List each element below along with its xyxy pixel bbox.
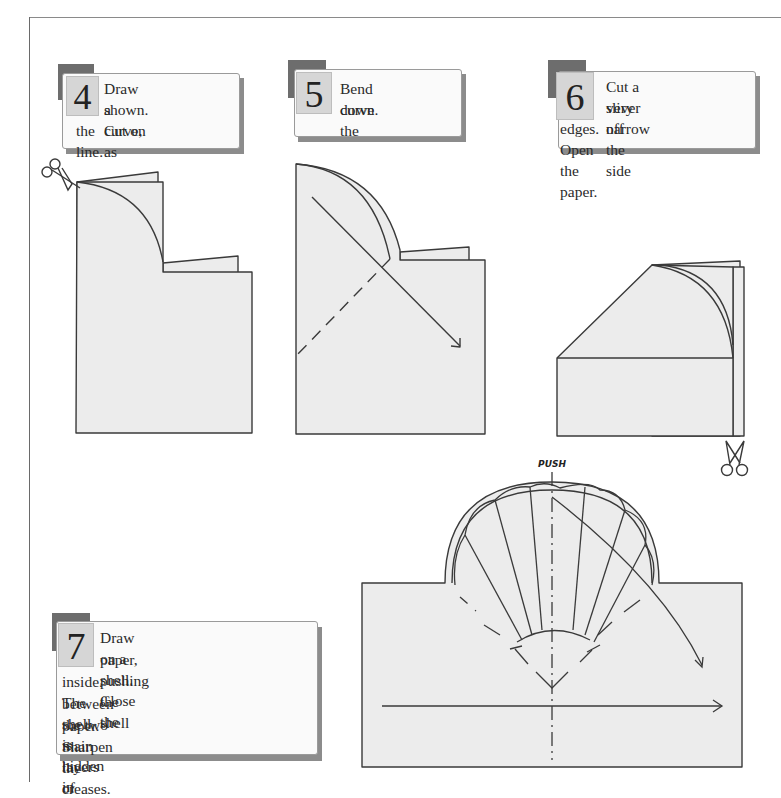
step-6-paper: [557, 261, 744, 436]
push-label: PUSH: [538, 459, 566, 469]
scissors-icon: [722, 441, 748, 476]
scissors-icon: [42, 159, 80, 190]
step-5-paper: [296, 164, 485, 434]
step-4-paper: [76, 172, 252, 433]
